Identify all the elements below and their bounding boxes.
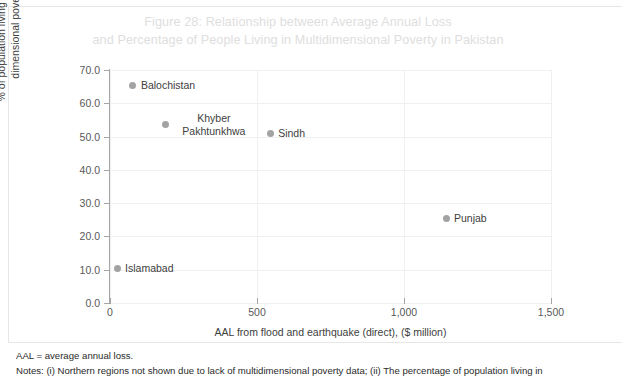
gridline-vertical — [110, 70, 111, 303]
data-point[interactable] — [114, 265, 121, 272]
x-axis-tick-label: 500 — [227, 307, 287, 318]
x-axis-tick-label: 1,500 — [521, 307, 581, 318]
x-axis-tick — [404, 298, 405, 304]
y-axis-title: % of population living in multi- dimensi… — [0, 0, 22, 112]
title-line-2: and Percentage of People Living in Multi… — [8, 32, 588, 50]
data-point-label: Sindh — [278, 127, 305, 140]
y-axis-tick — [104, 103, 110, 104]
data-point-label: Islamabad — [125, 262, 173, 275]
data-point[interactable] — [443, 215, 450, 222]
y-axis-tick — [104, 270, 110, 271]
gridline-vertical — [257, 70, 258, 303]
y-axis-title-line-2: dimensional poverty — [8, 0, 22, 112]
footnotes: AAL = average annual loss. Notes: (i) No… — [16, 349, 596, 378]
y-axis-tick — [104, 170, 110, 171]
data-point-label: Balochistan — [141, 79, 195, 92]
x-axis-tick-label: 0 — [80, 307, 140, 318]
gridline-vertical — [551, 70, 552, 303]
data-point[interactable] — [129, 82, 136, 89]
y-axis-tick — [104, 236, 110, 237]
y-axis-tick-label: 60.0 — [60, 98, 100, 108]
y-axis-tick — [104, 137, 110, 138]
x-axis-tick — [257, 298, 258, 304]
y-axis-tick-label: 20.0 — [60, 231, 100, 241]
y-axis-tick-label: 50.0 — [60, 132, 100, 142]
page-title: Figure 28: Relationship between Average … — [8, 14, 588, 49]
y-axis-tick-label: 70.0 — [60, 65, 100, 75]
data-point[interactable] — [162, 121, 169, 128]
footnote-notes: Notes: (i) Northern regions not shown du… — [16, 364, 596, 379]
gridline-vertical — [404, 70, 405, 303]
gridline-horizontal — [110, 103, 551, 104]
x-axis-title: AAL from flood and earthquake (direct), … — [110, 326, 551, 338]
footnote-aal: AAL = average annual loss. — [16, 349, 596, 364]
y-axis-tick-label: 40.0 — [60, 165, 100, 175]
x-axis-tick — [110, 298, 111, 304]
gridline-horizontal — [110, 270, 551, 271]
y-axis-tick-label: 30.0 — [60, 198, 100, 208]
x-axis-tick-label: 1,000 — [374, 307, 434, 318]
y-axis-tick — [104, 203, 110, 204]
data-point-label: Punjab — [454, 212, 487, 225]
data-point-label: Khyber Pakhtunkhwa — [173, 112, 255, 138]
gridline-horizontal — [110, 203, 551, 204]
title-line-1: Figure 28: Relationship between Average … — [8, 14, 588, 32]
gridline-horizontal — [110, 70, 551, 71]
gridline-horizontal — [110, 303, 551, 304]
y-axis-tick — [104, 70, 110, 71]
y-axis-tick-label: 10.0 — [60, 265, 100, 275]
x-axis-tick — [551, 298, 552, 304]
y-axis-title-line-1: % of population living in multi- — [0, 0, 8, 112]
gridline-horizontal — [110, 170, 551, 171]
gridline-horizontal — [110, 236, 551, 237]
plot-area: BalochistanKhyber PakhtunkhwaSindhPunjab… — [110, 70, 551, 303]
